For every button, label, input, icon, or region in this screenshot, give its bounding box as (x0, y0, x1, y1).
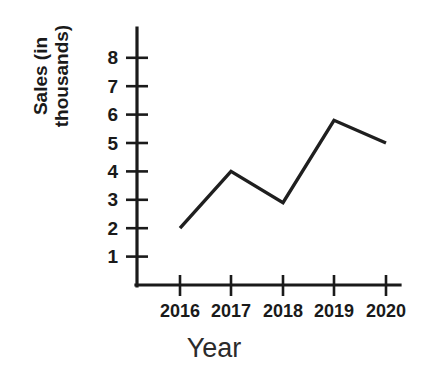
x-tick-label-2019: 2019 (314, 301, 354, 321)
y-tick-label-4: 4 (107, 161, 118, 182)
line-chart: 1 2 3 4 5 6 7 8 2016 2017 2018 2019 2020 (0, 0, 428, 381)
y-tick-label-8: 8 (107, 47, 118, 68)
y-tick-label-2: 2 (107, 218, 118, 239)
x-tick-label-2017: 2017 (211, 301, 251, 321)
x-axis-label: Year (0, 333, 428, 364)
y-tick-label-7: 7 (107, 76, 118, 97)
x-tick-label-2016: 2016 (160, 301, 200, 321)
y-axis-tick-labels: 1 2 3 4 5 6 7 8 (107, 47, 118, 267)
y-tick-label-1: 1 (107, 246, 118, 267)
x-tick-label-2020: 2020 (366, 301, 406, 321)
y-tick-label-5: 5 (107, 133, 118, 154)
y-tick-label-6: 6 (107, 104, 118, 125)
chart-canvas: 1 2 3 4 5 6 7 8 2016 2017 2018 2019 2020 (0, 0, 428, 381)
x-axis-tick-labels: 2016 2017 2018 2019 2020 (160, 301, 406, 321)
x-tick-label-2018: 2018 (263, 301, 303, 321)
sales-line-series (180, 120, 386, 228)
y-tick-label-3: 3 (107, 189, 118, 210)
